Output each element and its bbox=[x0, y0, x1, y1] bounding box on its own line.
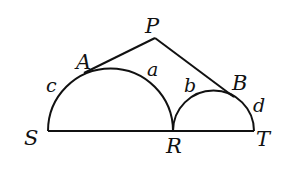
arc-label-c: c bbox=[46, 74, 57, 96]
point-label-t: T bbox=[256, 127, 272, 151]
point-label-b: B bbox=[231, 71, 247, 95]
arc-label-d: d bbox=[253, 94, 265, 116]
point-label-s: S bbox=[24, 126, 38, 150]
geometry-diagram: P A B S R T a b c d bbox=[0, 0, 291, 169]
point-label-p: P bbox=[144, 14, 160, 38]
semicircle-rt bbox=[173, 91, 254, 132]
arc-label-b: b bbox=[184, 74, 196, 96]
point-label-r: R bbox=[165, 134, 182, 158]
segment-pa bbox=[84, 38, 155, 73]
point-label-a: A bbox=[74, 50, 91, 74]
arc-label-a: a bbox=[147, 58, 158, 80]
